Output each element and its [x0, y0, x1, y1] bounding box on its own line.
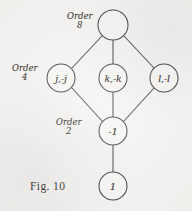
- node-label-right: l,-l: [158, 73, 170, 84]
- order-label-2: Order 2: [56, 118, 82, 135]
- edge-group: [72, 36, 154, 172]
- hasse-diagram-graph: [0, 0, 192, 211]
- node-top: [98, 10, 128, 40]
- order-label-2-number: 2: [56, 127, 82, 136]
- order-label-8-number: 8: [67, 21, 93, 30]
- order-label-4-number: 4: [12, 73, 38, 82]
- edge-top-left: [72, 36, 102, 68]
- figure-container: j,-j k,-k l,-l -1 1 Order 8 Order 4 Orde…: [0, 0, 192, 211]
- order-label-4: Order 4: [12, 64, 38, 81]
- edge-right-minus1: [124, 88, 154, 121]
- figure-caption: Fig. 10: [30, 180, 65, 192]
- node-label-minus1: -1: [108, 126, 118, 137]
- edge-top-right: [124, 36, 154, 68]
- node-label-left: j,-j: [55, 73, 66, 84]
- node-label-middle: k,-k: [105, 73, 122, 84]
- node-label-one: 1: [110, 181, 116, 192]
- order-label-8: Order 8: [67, 12, 93, 29]
